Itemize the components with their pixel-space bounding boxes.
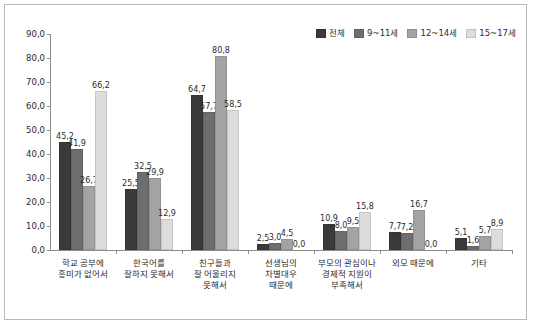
bar-value-label: 4,5 [281,230,294,238]
bar-group: 7,77,216,70,0 [380,34,446,250]
bar-column[interactable]: 0,0 [425,34,437,250]
bar[interactable] [413,210,425,250]
bar-value-label: 5,7 [479,227,492,235]
bar[interactable] [491,229,503,250]
bar[interactable] [125,189,137,250]
bar-value-label: 8,0 [335,222,348,230]
bar[interactable] [335,231,347,250]
x-axis-tick-mark [446,250,447,254]
x-axis-category-label: 한국어를 잘하지 못해서 [116,258,182,280]
bar-group: 2,53,04,50,0 [248,34,314,250]
bar-column[interactable]: 8,0 [335,34,347,250]
bar-group: 64,757,780,858,5 [182,34,248,250]
bar[interactable] [191,95,203,250]
bar-column[interactable]: 9,5 [347,34,359,250]
bar[interactable] [215,56,227,250]
bar[interactable] [389,232,401,250]
bar-column[interactable]: 12,9 [161,34,173,250]
bar[interactable] [83,186,95,250]
bar-column[interactable]: 25,5 [125,34,137,250]
bar-value-label: 5,1 [455,229,468,237]
bar-column[interactable]: 1,6 [467,34,479,250]
bar-column[interactable]: 5,1 [455,34,467,250]
bar[interactable] [359,212,371,250]
bar-column[interactable]: 57,7 [203,34,215,250]
x-axis-category-label: 친구들과 잘 어울리지 못해서 [182,258,248,291]
y-axis-tick-mark [47,250,50,251]
bar-column[interactable]: 2,5 [257,34,269,250]
x-axis-category-label: 기타 [446,258,512,269]
bar[interactable] [455,238,467,250]
bar-value-label: 2,5 [257,235,270,243]
plot-area: 0,010,020,030,040,050,060,070,080,090,04… [50,34,512,250]
bar[interactable] [71,149,83,250]
bar[interactable] [401,233,413,250]
bar[interactable] [59,142,71,250]
bar-value-label: 3,0 [269,234,282,242]
bar[interactable] [467,246,479,250]
bar-column[interactable]: 10,9 [323,34,335,250]
bar-value-label: 0,0 [293,241,306,249]
bar-column[interactable]: 0,0 [293,34,305,250]
x-axis-category-label: 외모 때문에 [380,258,446,269]
bar-column[interactable]: 80,8 [215,34,227,250]
bar[interactable] [323,224,335,250]
bar-column[interactable]: 64,7 [191,34,203,250]
bar-group: 25,532,529,912,9 [116,34,182,250]
x-axis-tick-mark [512,250,513,254]
bar-value-label: 66,2 [92,82,110,90]
bar[interactable] [95,91,107,250]
bar-value-label: 1,6 [467,237,480,245]
bar-column[interactable]: 7,2 [401,34,413,250]
bar-value-label: 7,7 [389,223,402,231]
bar-column[interactable]: 8,9 [491,34,503,250]
x-axis-tick-mark [182,250,183,254]
bar-column[interactable]: 32,5 [137,34,149,250]
bar-column[interactable]: 58,5 [227,34,239,250]
bar[interactable] [161,219,173,250]
bar-column[interactable]: 5,7 [479,34,491,250]
bar-column[interactable]: 7,7 [389,34,401,250]
bar-value-label: 7,2 [401,224,414,232]
x-axis-category-label: 선생님의 차별대우 때문에 [248,258,314,291]
bar[interactable] [479,236,491,250]
chart-container: 전체9~11세12~14세15~17세 0,010,020,030,040,05… [4,4,527,320]
bar-value-label: 0,0 [425,241,438,249]
bar-column[interactable]: 15,8 [359,34,371,250]
bar[interactable] [269,243,281,250]
bar[interactable] [227,110,239,250]
bar-value-label: 8,9 [491,220,504,228]
bar-value-label: 12,9 [158,210,176,218]
bar-value-label: 58,5 [224,101,242,109]
bar-column[interactable]: 26,7 [83,34,95,250]
bar-column[interactable]: 3,0 [269,34,281,250]
bar-column[interactable]: 4,5 [281,34,293,250]
bar[interactable] [257,244,269,250]
bar-column[interactable]: 66,2 [95,34,107,250]
x-axis-tick-mark [248,250,249,254]
bar-group: 45,241,926,766,2 [50,34,116,250]
bar[interactable] [347,227,359,250]
bar[interactable] [203,112,215,250]
bar[interactable] [137,172,149,250]
bar[interactable] [281,239,293,250]
x-axis-category-label: 학교 공부에 흥미가 없어서 [50,258,116,280]
x-axis-category-label: 부모의 관심이나 경제적 지원이 부족해서 [314,258,380,291]
bar-group: 10,98,09,515,8 [314,34,380,250]
bar-column[interactable]: 41,9 [71,34,83,250]
x-axis-tick-mark [314,250,315,254]
x-axis-tick-mark [380,250,381,254]
bar-group: 5,11,65,78,9 [446,34,512,250]
bar-value-label: 15,8 [356,203,374,211]
bar-value-label: 9,5 [347,218,360,226]
x-axis-tick-mark [116,250,117,254]
bar-column[interactable]: 16,7 [413,34,425,250]
x-axis-line [50,250,513,251]
